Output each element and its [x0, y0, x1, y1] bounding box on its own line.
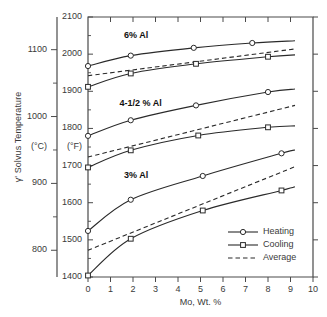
legend-label-average: Average — [263, 252, 296, 262]
data-point-cooling — [266, 125, 271, 130]
x-tick-label-7: 7 — [236, 284, 256, 294]
data-point-heating — [191, 45, 196, 50]
curve-4-1-2-al-cooling — [88, 126, 295, 168]
y-unit-fahrenheit: (°F) — [52, 141, 82, 151]
data-point-cooling — [200, 208, 205, 213]
x-tick-label-8: 8 — [258, 284, 278, 294]
curve-6-al-average — [88, 49, 295, 76]
curve-6-al-heating — [88, 41, 295, 66]
y-tick-label-f-1900: 1900 — [52, 85, 82, 95]
y-tick-label-c-900: 900 — [13, 177, 47, 187]
data-point-heating — [279, 151, 284, 156]
x-tick-label-2: 2 — [123, 284, 143, 294]
data-point-heating — [128, 53, 133, 58]
data-point-heating — [128, 118, 133, 123]
x-tick-label-5: 5 — [191, 284, 211, 294]
chart-figure: γ' Solvus Temperature Mo, Wt. % 14001500… — [0, 0, 327, 317]
y-tick-label-f-2000: 2000 — [52, 48, 82, 58]
data-point-heating — [85, 133, 90, 138]
y-tick-label-f-1800: 1800 — [52, 122, 82, 132]
data-point-heating — [250, 40, 255, 45]
data-point-cooling — [279, 188, 284, 193]
curve-6-al-cooling — [88, 55, 295, 87]
x-tick-label-0: 0 — [78, 284, 98, 294]
x-tick-label-9: 9 — [281, 284, 301, 294]
annotation-3-al: 3% Al — [124, 170, 148, 180]
curve-4-1-2-al-heating — [88, 89, 295, 136]
data-point-heating — [85, 63, 90, 68]
x-tick-label-4: 4 — [168, 284, 188, 294]
curve-4-1-2-al-average — [88, 105, 295, 157]
y-tick-label-c-1100: 1100 — [13, 44, 47, 54]
y-tick-label-c-800: 800 — [13, 244, 47, 254]
x-tick-label-6: 6 — [213, 284, 233, 294]
data-point-cooling — [266, 54, 271, 59]
y-tick-label-c-1000: 1000 — [13, 111, 47, 121]
x-tick-label-10: 10 — [303, 284, 323, 294]
data-point-cooling — [128, 71, 133, 76]
data-point-heating — [128, 197, 133, 202]
legend-label-heating: Heating — [263, 226, 294, 236]
y-unit-celsius: (°C) — [13, 141, 47, 151]
data-point-heating — [200, 173, 205, 178]
annotation-6-al: 6% Al — [124, 30, 148, 40]
data-point-cooling — [128, 236, 133, 241]
data-point-heating — [193, 103, 198, 108]
x-axis-title: Mo, Wt. % — [88, 297, 313, 307]
data-point-cooling — [194, 61, 199, 66]
data-point-heating — [265, 89, 270, 94]
x-tick-label-3: 3 — [146, 284, 166, 294]
y-tick-label-f-2100: 2100 — [52, 11, 82, 21]
plot-canvas — [0, 0, 327, 317]
curve-3-al-heating — [88, 150, 295, 231]
legend-marker-square — [241, 243, 246, 248]
y-tick-label-f-1600: 1600 — [52, 197, 82, 207]
y-tick-label-f-1500: 1500 — [52, 234, 82, 244]
data-point-cooling — [86, 165, 91, 170]
annotation-4-1-2-al: 4-1/2 % Al — [120, 98, 162, 108]
data-point-cooling — [196, 133, 201, 138]
y-tick-label-f-1700: 1700 — [52, 160, 82, 170]
data-point-cooling — [86, 84, 91, 89]
legend-label-cooling: Cooling — [263, 239, 294, 249]
data-point-heating — [85, 228, 90, 233]
legend-marker-circle — [240, 229, 245, 234]
y-tick-label-f-1400: 1400 — [52, 271, 82, 281]
data-point-cooling — [128, 148, 133, 153]
data-point-cooling — [86, 273, 91, 278]
x-tick-label-1: 1 — [101, 284, 121, 294]
